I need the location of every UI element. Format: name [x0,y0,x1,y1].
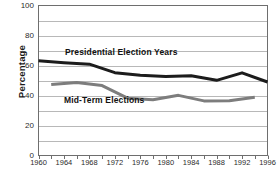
series-label-mid-term-elections: Mid-Term Elections [64,95,144,105]
plot-frame [39,6,268,156]
series-label-presidential-election-years: Presidential Election Years [65,47,178,57]
x-axis-tick-label: 1996 [253,159,278,167]
series-line-presidential-election-years [39,61,268,82]
vote-turnout-line-chart: Percentage 020406080100 Presidential Ele… [0,0,277,173]
plot-area [0,0,277,173]
